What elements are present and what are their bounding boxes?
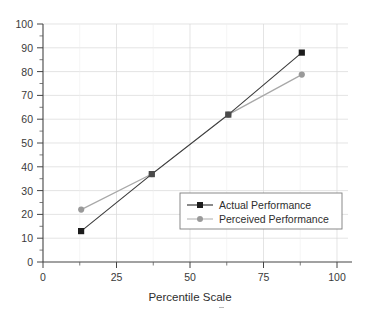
legend-label-perceived: Perceived Performance bbox=[219, 213, 329, 225]
y-tick-label: 60 bbox=[21, 113, 33, 125]
x-axis-major-ticks bbox=[43, 262, 337, 268]
y-tick-label: 30 bbox=[21, 185, 33, 197]
y-tick-label: 0 bbox=[27, 256, 33, 268]
y-tick-label: 90 bbox=[21, 42, 33, 54]
data-point-marker bbox=[299, 72, 305, 78]
y-tick-label: 20 bbox=[21, 208, 33, 220]
y-tick-label: 40 bbox=[21, 161, 33, 173]
legend-label-actual: Actual Performance bbox=[219, 199, 311, 211]
x-axis-tick-labels: 0 25 50 75 100 bbox=[40, 271, 346, 283]
x-tick-label: 25 bbox=[111, 271, 123, 283]
x-axis-title: Percentile Scale bbox=[148, 291, 231, 303]
data-point-marker bbox=[299, 50, 305, 56]
circle-marker-icon bbox=[197, 216, 203, 222]
x-tick-label: 0 bbox=[40, 271, 46, 283]
y-axis-tick-labels: 100 90 80 70 60 50 40 30 20 10 0 bbox=[15, 18, 33, 268]
data-point-marker bbox=[78, 228, 84, 234]
chart-legend[interactable]: Actual Performance Perceived Performance bbox=[180, 193, 342, 229]
square-marker-icon bbox=[197, 202, 203, 208]
data-point-marker bbox=[225, 112, 231, 118]
y-tick-label: 80 bbox=[21, 66, 33, 78]
chart-container: 100 90 80 70 60 50 40 30 20 10 0 0 25 50… bbox=[0, 0, 370, 317]
data-point-marker bbox=[78, 207, 84, 213]
y-tick-label: 100 bbox=[15, 18, 33, 30]
y-tick-label: 10 bbox=[21, 232, 33, 244]
x-tick-label: 100 bbox=[328, 271, 346, 283]
x-tick-label: 75 bbox=[258, 271, 270, 283]
line-chart: 100 90 80 70 60 50 40 30 20 10 0 0 25 50… bbox=[0, 0, 370, 317]
y-tick-label: 50 bbox=[21, 137, 33, 149]
x-tick-label: 50 bbox=[184, 271, 196, 283]
y-tick-label: 70 bbox=[21, 89, 33, 101]
scan-artifact-mark bbox=[219, 307, 224, 308]
data-point-marker bbox=[149, 171, 155, 177]
